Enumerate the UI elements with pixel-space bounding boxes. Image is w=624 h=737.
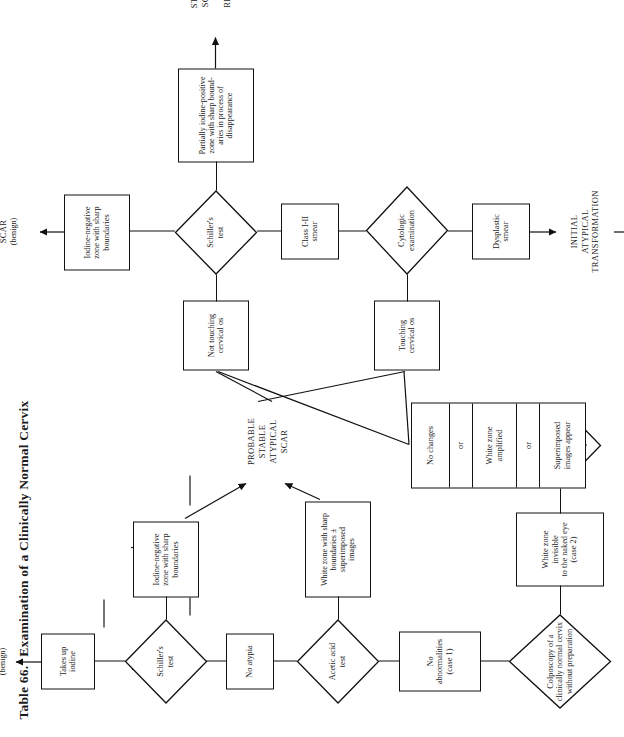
edge-start-to-case2 xyxy=(560,585,561,614)
edge-case2-to-acetic2 xyxy=(560,487,561,513)
node-class-i-ii-smear: Class I-II smear xyxy=(281,203,339,259)
node-touching-cervical-os: Touching cervical os xyxy=(374,300,440,370)
node-cytologic-examination: Cytologic examination xyxy=(365,185,449,275)
node-label: Colposcopy of a clinically normal cervix… xyxy=(508,613,612,709)
edge-acetic1-to-noatypia xyxy=(274,660,297,661)
node-changes-multi: No changes or White zone amplified or Su… xyxy=(411,402,586,488)
node-no-atypia: No atypia xyxy=(226,633,274,689)
node-case2-white-zone-invisible: White zone invisible to the naked eye (c… xyxy=(516,512,604,586)
outcome-initial-atypical-transformation: INITIAL ATYPICAL TRANSFORMATION xyxy=(558,173,612,289)
node-iodine-negative-zone-1: Iodine-negative zone with sharp boundari… xyxy=(133,521,199,597)
edge-touching-to-cytologic xyxy=(407,274,408,301)
changes-cell-2: White zone amplified xyxy=(473,403,517,487)
node-takes-up-iodine: Takes up iodine xyxy=(41,633,95,689)
edge-schiller1-to-iodineneg1 xyxy=(166,596,167,619)
node-case1-no-abnormalities: No abnormalities (case 1) xyxy=(399,631,481,691)
node-iodine-negative-zone-2: Iodine-negative zone with sharp boundari… xyxy=(64,194,130,270)
outcome-stable-atypical-scar: STABLE ATYPICAL SCAR (benign) xyxy=(0,187,28,275)
node-partially-iodine-positive: Partially iodine-positive zone with shar… xyxy=(178,68,254,162)
node-label: Cytologic examination xyxy=(365,185,449,275)
edge-noatypia-to-schiller1 xyxy=(206,660,227,661)
table-number: Table 66. xyxy=(16,665,31,719)
node-label: Schiller's test xyxy=(174,189,258,275)
changes-cell-3: or xyxy=(517,403,540,487)
page-title: Table 66.Examination of a Clinically Nor… xyxy=(16,400,32,719)
edge-schiller2-to-partial xyxy=(216,161,217,190)
diagram-canvas: Table 66.Examination of a Clinically Nor… xyxy=(0,0,624,737)
node-dysplastic-smear: Dysplastic smear xyxy=(472,203,530,259)
node-label: Acetic acid test xyxy=(296,618,380,704)
edge-cytologic-to-dysplastic xyxy=(448,230,473,231)
outcome-stable-atypical-scar-regularization: STABLE ATYPICAL SCAR IN PROCESS OF REGUL… xyxy=(181,0,251,34)
node-schillers-test-2: Schiller's test xyxy=(174,189,258,275)
edge-start-to-case1 xyxy=(481,660,509,661)
changes-cell-4: Superimposed images appear xyxy=(540,403,585,487)
edge-acetic2-changes-link xyxy=(586,444,587,445)
node-acetic-acid-test-1: Acetic acid test xyxy=(296,618,380,704)
edge-acetic1-to-whitezone xyxy=(338,596,339,619)
changes-cell-0: No changes xyxy=(412,403,450,487)
node-colposcopy-start: Colposcopy of a clinically normal cervix… xyxy=(508,613,612,709)
outcome-normal-cervix: NORMAL CERVIX (benign) xyxy=(0,619,14,703)
edge-schiller2-to-classsmear xyxy=(257,230,282,231)
node-not-touching-cervical-os: Not touching cervical os xyxy=(183,300,249,370)
changes-cell-1: or xyxy=(450,403,473,487)
edge-schiller2-to-iodineneg2 xyxy=(130,230,175,231)
edge-case1-to-acetic1 xyxy=(379,660,400,661)
node-schillers-test-1: Schiller's test xyxy=(124,618,208,704)
node-label: Schiller's test xyxy=(124,618,208,704)
table-title: Examination of a Clinically Normal Cervi… xyxy=(16,400,31,656)
edge-nottouching-to-schiller2 xyxy=(216,274,217,301)
edge-classsmear-to-cytologic xyxy=(339,230,366,231)
edge-schiller1-to-takesupiodine xyxy=(95,660,125,661)
node-white-zone-sharp-boundaries: White zone with sharp boundaries ± super… xyxy=(305,501,371,597)
outcome-probable-stable-atypical-scar: PROBABLE STABLE ATYPICAL SCAR xyxy=(238,403,298,479)
